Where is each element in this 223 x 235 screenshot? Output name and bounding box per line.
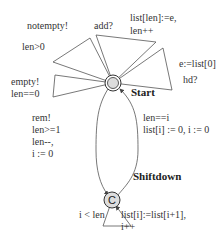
- to-start-guard: len==i: [143, 112, 169, 124]
- rem-update-1: len--,: [32, 136, 53, 148]
- edge-rem: [96, 89, 108, 195]
- notempty-sync: notempty!: [27, 20, 68, 32]
- empty-sync: empty!: [11, 76, 39, 88]
- shift-update-1: list[i]:=list[i+1],: [121, 209, 186, 221]
- add-update-2: len++: [130, 25, 154, 37]
- state-start-label: Start: [131, 86, 155, 98]
- rem-guard: len>=1: [32, 124, 61, 136]
- rem-sync: rem!: [32, 112, 51, 124]
- state-start: [105, 75, 121, 91]
- to-start-update: list[i] := 0, i := 0: [143, 124, 209, 136]
- shift-guard: i < len: [79, 209, 105, 221]
- hd-sync: hd?: [183, 74, 197, 86]
- edge-empty: [53, 75, 113, 97]
- state-shiftdown-label: Shiftdown: [133, 170, 181, 182]
- shift-update-2: i++: [121, 221, 135, 233]
- hd-update: e:=list[0]: [179, 58, 216, 70]
- empty-guard: len==0: [11, 88, 40, 100]
- add-sync: add?: [94, 20, 113, 32]
- notempty-guard: len>0: [22, 41, 45, 53]
- committed-icon: C: [108, 194, 116, 206]
- add-update-1: list[len]:=e,: [130, 12, 176, 24]
- rem-update-2: i := 0: [32, 148, 53, 160]
- edge-hd: [113, 48, 172, 90]
